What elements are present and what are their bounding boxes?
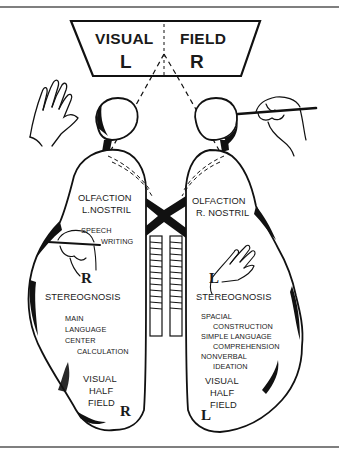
left-function-language: LANGUAGE <box>65 326 106 333</box>
left-olfaction-label: OLFACTION <box>78 194 132 203</box>
corpus-callosum <box>150 236 182 336</box>
speech-label: SPEECH <box>81 227 112 234</box>
left-eye-bulb <box>96 98 137 152</box>
right-eye-bulb <box>195 98 237 152</box>
writing-label: WRITING <box>101 238 133 245</box>
left-function-center: CENTER <box>65 337 96 344</box>
left-nostril-label: L.NOSTRIL <box>82 206 131 215</box>
left-function-main: MAIN <box>65 315 84 322</box>
right-field-letter: L <box>201 408 211 423</box>
right-field-label: FIELD <box>210 401 237 410</box>
left-half-label: HALF <box>89 387 113 396</box>
left-field-label: FIELD <box>88 399 115 408</box>
left-hand-letter: R <box>81 271 92 286</box>
visual-field-left-letter: L <box>120 52 132 71</box>
split-brain-diagram <box>0 0 339 458</box>
right-half-label: HALF <box>210 389 234 398</box>
writing-hand-icon <box>238 97 316 156</box>
visual-field-title-right: FIELD <box>180 31 226 47</box>
right-function-ideation: IDEATION <box>213 363 248 370</box>
left-hemisphere <box>29 150 147 431</box>
right-function-simple-language: SIMPLE LANGUAGE <box>201 333 272 340</box>
visual-field-title-left: VISUAL <box>95 31 154 47</box>
left-field-letter: R <box>120 404 131 419</box>
left-function-calculation: CALCULATION <box>77 348 129 355</box>
right-function-spacial: SPACIAL <box>201 313 232 320</box>
right-function-comprehension: COMPREHENSION <box>213 343 280 350</box>
left-stereognosis-label: STEREOGNOSIS <box>45 293 121 302</box>
left-visual-label: VISUAL <box>83 375 117 384</box>
right-function-nonverbal: NONVERBAL <box>201 353 247 360</box>
right-visual-label: VISUAL <box>205 377 239 386</box>
right-olfaction-label: OLFACTION <box>192 197 246 206</box>
visual-field-right-letter: R <box>190 52 204 71</box>
right-hemisphere <box>186 150 303 432</box>
right-function-construction: CONSTRUCTION <box>213 323 273 330</box>
right-hand-letter: L <box>209 271 219 286</box>
left-hand-icon <box>30 80 78 146</box>
right-nostril-label: R. NOSTRIL <box>196 209 249 218</box>
right-stereognosis-label: STEREOGNOSIS <box>196 293 272 302</box>
